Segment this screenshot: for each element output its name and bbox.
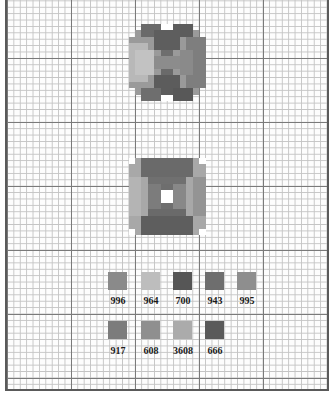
legend-swatch-3608 — [173, 321, 192, 339]
legend-swatch-996 — [108, 272, 127, 290]
legend-swatch-917 — [108, 321, 127, 339]
legend-label-995: 995 — [230, 296, 264, 306]
motif-hourglass-graphic — [128, 158, 206, 235]
motif-hourglass-block — [128, 158, 206, 235]
legend-swatch-964 — [141, 272, 160, 290]
legend-label-608: 608 — [134, 346, 168, 356]
legend-swatch-666 — [205, 321, 224, 339]
legend-label-666: 666 — [198, 346, 232, 356]
legend-label-964: 964 — [134, 296, 168, 306]
legend-label-943: 943 — [198, 296, 232, 306]
motif-x-graphic — [128, 24, 206, 101]
legend-label-700: 700 — [166, 296, 200, 306]
legend-swatch-608 — [141, 321, 160, 339]
motif-x-block — [128, 24, 206, 101]
legend-label-996: 996 — [101, 296, 135, 306]
legend-swatch-995 — [237, 272, 256, 290]
legend-label-3608: 3608 — [166, 346, 200, 356]
legend-label-917: 917 — [101, 346, 135, 356]
legend-swatch-943 — [205, 272, 224, 290]
legend-swatch-700 — [173, 272, 192, 290]
